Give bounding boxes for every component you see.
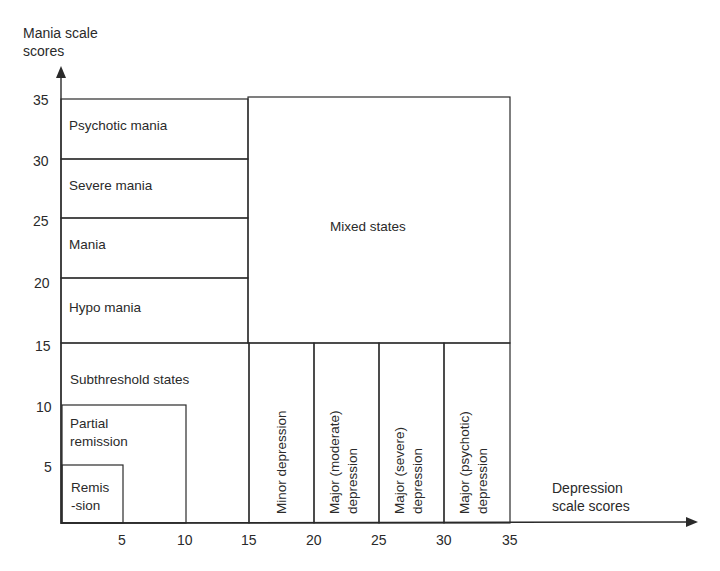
- label-psychotic-mania: Psychotic mania: [69, 118, 168, 133]
- x-tick-10: 10: [177, 532, 193, 548]
- label-severe-mania: Severe mania: [69, 178, 153, 193]
- label-mania: Mania: [69, 237, 106, 252]
- label-major-severe-line2: depression: [410, 448, 425, 514]
- y-tick-30: 30: [33, 153, 49, 169]
- x-tick-20: 20: [306, 532, 322, 548]
- label-major-moderate-line2: depression: [345, 448, 360, 514]
- label-mixed-states: Mixed states: [330, 219, 406, 234]
- y-axis-arrow-icon: [56, 66, 66, 78]
- label-remission-line2: -sion: [71, 498, 100, 513]
- label-hypo-mania: Hypo mania: [69, 300, 142, 315]
- x-tick-labels: 5 10 15 20 25 30 35: [118, 532, 518, 548]
- y-axis-title-line2: scores: [23, 43, 64, 59]
- y-axis-title-line1: Mania scale: [23, 25, 98, 41]
- label-major-psychotic-line1: Major (psychotic): [457, 411, 472, 514]
- x-tick-5: 5: [118, 532, 126, 548]
- region-subthreshold-states: [61, 343, 249, 523]
- label-subthreshold-states: Subthreshold states: [70, 372, 190, 387]
- x-tick-35: 35: [502, 532, 518, 548]
- x-tick-30: 30: [436, 532, 452, 548]
- y-tick-25: 25: [33, 213, 49, 229]
- label-major-psychotic-line2: depression: [475, 448, 490, 514]
- mood-state-diagram: Mania scale scores Depression scale scor…: [0, 0, 720, 571]
- x-axis-title-line1: Depression: [552, 480, 623, 496]
- y-tick-20: 20: [34, 275, 50, 291]
- label-minor-depression: Minor depression: [274, 410, 289, 514]
- label-major-moderate-line1: Major (moderate): [327, 410, 342, 514]
- label-major-severe-line1: Major (severe): [392, 427, 407, 514]
- x-tick-15: 15: [241, 532, 257, 548]
- y-tick-35: 35: [33, 92, 49, 108]
- y-tick-5: 5: [44, 459, 52, 475]
- x-axis-arrow-icon: [686, 517, 698, 527]
- x-axis-title-line2: scale scores: [552, 498, 630, 514]
- y-tick-labels: 35 30 25 20 15 10 5: [33, 92, 52, 475]
- x-tick-25: 25: [371, 532, 387, 548]
- label-partial-remission-line1: Partial: [70, 416, 108, 431]
- label-partial-remission-line2: remission: [70, 434, 128, 449]
- label-remission-line1: Remis: [71, 480, 110, 495]
- y-tick-10: 10: [36, 399, 52, 415]
- y-tick-15: 15: [35, 338, 51, 354]
